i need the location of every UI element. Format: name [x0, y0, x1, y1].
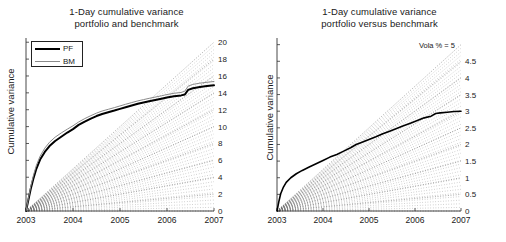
origin-ray-36 — [26, 79, 214, 211]
origin-ray-20 — [26, 138, 214, 211]
reference-ray-1 — [277, 61, 461, 211]
reference-ray-4 — [26, 110, 214, 211]
ray-value-label-7: 6 — [218, 156, 223, 165]
reference-ray-7 — [26, 160, 214, 211]
x-tick-label-3: 2006 — [158, 215, 177, 225]
right-edge-ray-labels: 20181614121086420 — [218, 38, 227, 216]
x-tick-label-3: 2006 — [406, 215, 425, 225]
ray-value-label-8: 1 — [465, 174, 470, 183]
legend-label-pf: PF — [63, 44, 73, 53]
vola-annotation-label: Vola % = 5 — [419, 41, 455, 50]
figure-container: 2003200420052006200720181614121086420 1-… — [0, 0, 506, 242]
origin-ray-32 — [26, 94, 214, 211]
legend-item-pf: PF — [32, 42, 82, 55]
origin-ray-7 — [277, 186, 461, 211]
reference-ray-8 — [26, 177, 214, 211]
origin-ray-24 — [26, 123, 214, 211]
ray-value-label-1: 4.5 — [465, 57, 477, 66]
origin-ray-31 — [26, 97, 214, 211]
reference-ray-2 — [26, 76, 214, 211]
ray-value-label-2: 16 — [218, 72, 227, 81]
origin-ray-35 — [277, 84, 461, 211]
origin-ray-15 — [277, 157, 461, 211]
ray-value-label-10: 0 — [218, 207, 223, 216]
origin-ray-44 — [277, 52, 461, 211]
origin-ray-18 — [26, 145, 214, 211]
x-tick-label-4: 2007 — [205, 215, 224, 225]
origin-ray-39 — [277, 70, 461, 211]
legend-label-bm: BM — [63, 57, 75, 66]
origin-ray-21 — [277, 135, 461, 211]
x-tick-label-0: 2003 — [17, 215, 36, 225]
ray-value-label-10: 0 — [465, 207, 470, 216]
origin-ray-43 — [277, 56, 461, 211]
origin-ray-25 — [277, 121, 461, 211]
reference-ray-5 — [26, 127, 214, 211]
origin-ray-26 — [26, 116, 214, 211]
ray-value-label-9: 0.5 — [465, 190, 477, 199]
origin-ray-29 — [26, 105, 214, 211]
origin-ray-44 — [26, 50, 214, 211]
origin-ray-24 — [277, 124, 461, 211]
x-tick-label-1: 2004 — [64, 215, 83, 225]
origin-ray-42 — [277, 59, 461, 211]
origin-ray-17 — [26, 149, 214, 211]
right-y-axis-label: Cumulative variance — [264, 58, 275, 178]
origin-ray-38 — [277, 74, 461, 211]
ray-value-label-3: 14 — [218, 89, 227, 98]
ray-value-label-5: 2.5 — [465, 124, 477, 133]
ray-value-label-4: 12 — [218, 106, 227, 115]
origin-ray-29 — [277, 106, 461, 211]
ray-value-label-3: 3.5 — [465, 91, 477, 100]
legend-line-icon-bm — [35, 61, 60, 62]
origin-ray-32 — [277, 95, 461, 211]
legend-line-icon-pf — [35, 48, 60, 50]
origin-ray-45 — [277, 48, 461, 211]
origin-ray-34 — [277, 88, 461, 211]
origin-ray-35 — [26, 83, 214, 211]
legend-item-bm: BM — [32, 55, 82, 68]
chart-panel-left: 2003200420052006200720181614121086420 1-… — [0, 0, 253, 242]
ray-value-label-8: 4 — [218, 173, 223, 182]
right-chart-svg: 20032004200520062007Vola % = 54.543.532.… — [253, 0, 506, 242]
origin-ray-41 — [277, 63, 461, 211]
origin-ray-cluster — [277, 48, 461, 211]
x-tick-label-0: 2003 — [268, 215, 287, 225]
ray-value-label-4: 3 — [465, 107, 470, 116]
origin-ray-20 — [277, 139, 461, 211]
origin-ray-9 — [277, 178, 461, 211]
ray-value-label-6: 8 — [218, 139, 223, 148]
origin-ray-16 — [26, 152, 214, 211]
x-tick-label-1: 2004 — [314, 215, 333, 225]
origin-ray-26 — [277, 117, 461, 211]
origin-ray-41 — [26, 61, 214, 211]
ray-value-label-6: 2 — [465, 140, 470, 149]
x-tick-label-2: 2005 — [360, 215, 379, 225]
origin-ray-36 — [277, 81, 461, 211]
ray-value-label-1: 18 — [218, 55, 227, 64]
ray-value-label-7: 1.5 — [465, 157, 477, 166]
reference-ray-4 — [277, 111, 461, 211]
origin-ray-13 — [277, 164, 461, 211]
origin-ray-30 — [277, 103, 461, 211]
origin-ray-19 — [26, 141, 214, 211]
x-tick-label-4: 2007 — [452, 215, 471, 225]
origin-ray-cluster — [26, 46, 214, 211]
chart-panel-right: 20032004200520062007Vola % = 54.543.532.… — [253, 0, 506, 242]
ray-value-label-5: 10 — [218, 123, 227, 132]
ray-value-label-2: 4 — [465, 74, 470, 83]
left-y-axis-label: Cumulative variance — [5, 52, 16, 172]
axes: 20032004200520062007 — [268, 38, 471, 225]
left-chart-svg: 2003200420052006200720181614121086420 — [0, 0, 253, 242]
reference-ray-6 — [26, 143, 214, 211]
x-tick-label-2: 2005 — [111, 215, 130, 225]
origin-ray-34 — [26, 86, 214, 211]
reference-ray-8 — [277, 178, 461, 211]
origin-ray-43 — [26, 53, 214, 211]
origin-ray-10 — [277, 175, 461, 211]
origin-ray-19 — [277, 142, 461, 211]
origin-ray-25 — [26, 119, 214, 211]
reference-ray-1 — [26, 59, 214, 211]
reference-ray-6 — [277, 144, 461, 211]
origin-ray-21 — [26, 134, 214, 211]
